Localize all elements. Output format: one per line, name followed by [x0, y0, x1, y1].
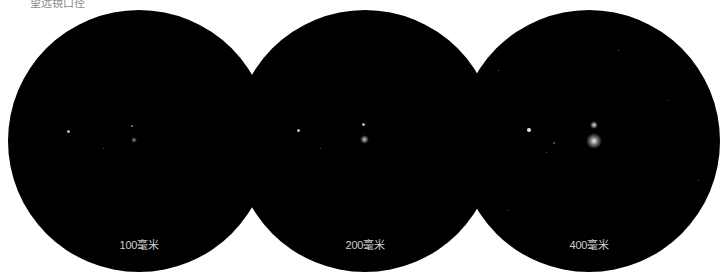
star [67, 130, 70, 133]
eyepiece-view-400mm: 400毫米 [458, 10, 720, 272]
view-label: 200毫米 [234, 236, 496, 252]
star [320, 148, 321, 149]
star [362, 123, 365, 126]
eyepiece-view-200mm: 200毫米 [234, 10, 496, 272]
star [553, 142, 555, 144]
companion-galaxy [590, 121, 598, 129]
star [508, 210, 509, 211]
galaxy [131, 137, 137, 143]
star [618, 50, 619, 51]
star [668, 100, 669, 101]
view-label: 400毫米 [458, 236, 720, 252]
star [297, 129, 300, 132]
star [498, 70, 499, 71]
spiral-galaxy [586, 133, 602, 149]
star [546, 152, 547, 153]
star [131, 125, 133, 127]
figure-caption: 望远镜口径 [30, 0, 85, 10]
view-label: 100毫米 [8, 236, 270, 252]
eyepiece-view-100mm: 100毫米 [8, 10, 270, 272]
star [527, 128, 531, 132]
galaxy [360, 135, 369, 144]
star [698, 180, 699, 181]
star [103, 148, 104, 149]
